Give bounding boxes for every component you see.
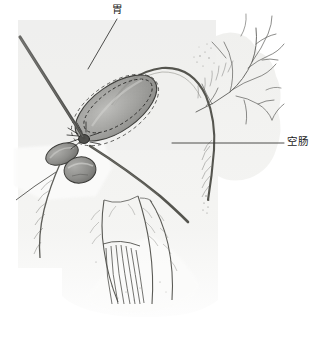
illustration-canvas — [0, 0, 325, 338]
label-stomach: 胃 — [112, 4, 123, 15]
anatomical-figure: 胃 空肠 — [0, 0, 325, 338]
background-panel — [14, 20, 281, 317]
label-jejunum: 空肠 — [287, 136, 308, 147]
